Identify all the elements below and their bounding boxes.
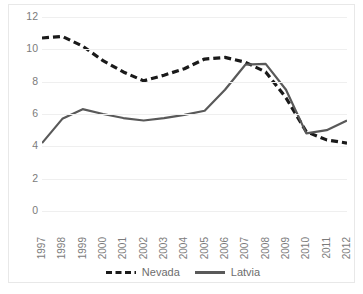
legend-label-nevada: Nevada [142,267,180,278]
x-tick-label-1998: 1998 [57,237,67,259]
gridline-2 [42,179,347,180]
x-axis: 1997199819992000200120022003200420052006… [42,213,347,259]
gridline-4 [42,146,347,147]
y-axis: 024681012 [14,17,38,211]
y-tick-label-2: 2 [16,173,38,184]
x-tick-label-2003: 2003 [159,237,169,259]
y-tick-label-4: 4 [16,140,38,151]
legend-swatch-solid [194,268,226,277]
x-tick-label-2012: 2012 [342,237,352,259]
x-tick-label-1999: 1999 [78,237,88,259]
plot-area [42,17,347,211]
series-line-nevada [42,36,347,143]
legend-item-nevada[interactable]: Nevada [105,267,180,278]
x-tick-label-2009: 2009 [281,237,291,259]
chart-legend: Nevada Latvia [9,263,356,281]
x-tick-label-2004: 2004 [179,237,189,259]
x-tick-label-2008: 2008 [261,237,271,259]
gridline-12 [42,17,347,18]
x-tick-label-2000: 2000 [98,237,108,259]
x-tick-label-2006: 2006 [220,237,230,259]
y-tick-label-0: 0 [16,205,38,216]
y-tick-label-6: 6 [16,108,38,119]
legend-swatch-dashed [105,268,137,277]
x-tick-label-2010: 2010 [301,237,311,259]
x-tick-label-2002: 2002 [139,237,149,259]
x-tick-label-2005: 2005 [200,237,210,259]
series-line-latvia [42,64,347,143]
y-tick-label-12: 12 [16,11,38,22]
gridline-10 [42,49,347,50]
gridline-6 [42,114,347,115]
gridline-8 [42,82,347,83]
y-tick-label-8: 8 [16,76,38,87]
x-tick-label-2011: 2011 [322,237,332,259]
gridline-0 [42,211,347,212]
x-tick-label-2007: 2007 [240,237,250,259]
x-tick-label-2001: 2001 [118,237,128,259]
legend-item-latvia[interactable]: Latvia [194,267,260,278]
chart-card: 024681012 199719981999200020012002200320… [8,4,355,283]
y-tick-label-10: 10 [16,43,38,54]
x-tick-label-1997: 1997 [37,237,47,259]
legend-label-latvia: Latvia [231,267,260,278]
